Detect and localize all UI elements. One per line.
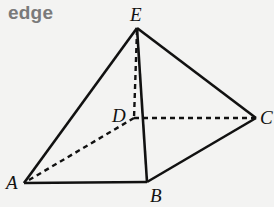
edge-EC — [137, 28, 256, 118]
visible-edges — [24, 28, 256, 183]
edge-ED — [134, 30, 137, 118]
edge-DA — [24, 118, 134, 183]
vertex-label-b: B — [150, 186, 162, 205]
edge-EB — [137, 28, 147, 182]
edge-BC — [147, 118, 256, 182]
edge-AB — [24, 182, 147, 183]
hidden-edges — [24, 30, 256, 183]
vertex-label-d: D — [112, 106, 126, 125]
pyramid-figure — [0, 0, 274, 207]
diagram-canvas: edge E D C A B — [0, 0, 274, 207]
vertex-label-c: C — [260, 108, 273, 127]
vertex-label-a: A — [6, 173, 18, 192]
vertex-label-e: E — [130, 5, 142, 24]
